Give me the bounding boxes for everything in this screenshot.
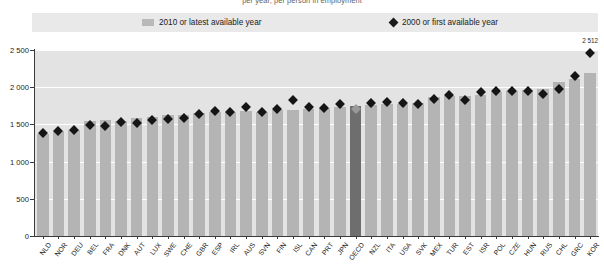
x-tick-mark xyxy=(575,236,576,239)
y-tick-mark xyxy=(30,162,34,163)
x-tick-mark xyxy=(168,236,169,239)
y-tick-mark xyxy=(30,50,34,51)
y-axis-labels: 05001 0001 5002 0002 500 xyxy=(0,0,604,272)
x-tick-mark xyxy=(262,236,263,239)
y-tick-mark xyxy=(30,199,34,200)
x-tick-mark xyxy=(293,236,294,239)
x-tick-mark xyxy=(496,236,497,239)
x-tick-mark xyxy=(387,236,388,239)
x-tick-mark xyxy=(152,236,153,239)
x-tick-mark xyxy=(481,236,482,239)
x-tick-mark xyxy=(528,236,529,239)
y-tick-label: 1 500 xyxy=(0,120,29,129)
x-tick-mark xyxy=(590,236,591,239)
x-tick-mark xyxy=(246,236,247,239)
y-tick-label: 1 000 xyxy=(0,157,29,166)
x-tick-mark xyxy=(465,236,466,239)
x-tick-mark xyxy=(90,236,91,239)
x-tick-mark xyxy=(449,236,450,239)
x-tick-mark xyxy=(121,236,122,239)
y-tick-label: 0 xyxy=(0,232,29,241)
x-tick-mark xyxy=(340,236,341,239)
y-tick-label: 2 000 xyxy=(0,83,29,92)
x-tick-mark xyxy=(324,236,325,239)
x-tick-mark xyxy=(403,236,404,239)
x-tick-mark xyxy=(74,236,75,239)
x-tick-mark xyxy=(277,236,278,239)
x-tick-mark xyxy=(543,236,544,239)
y-tick-mark xyxy=(30,124,34,125)
x-tick-mark xyxy=(309,236,310,239)
x-tick-mark xyxy=(512,236,513,239)
y-tick-mark xyxy=(30,87,34,88)
x-tick-mark xyxy=(43,236,44,239)
x-tick-mark xyxy=(215,236,216,239)
x-tick-mark xyxy=(559,236,560,239)
x-tick-mark xyxy=(199,236,200,239)
x-tick-mark xyxy=(58,236,59,239)
x-tick-mark xyxy=(371,236,372,239)
y-tick-mark xyxy=(30,236,34,237)
y-tick-label: 2 500 xyxy=(0,46,29,55)
x-tick-mark xyxy=(105,236,106,239)
x-tick-mark xyxy=(418,236,419,239)
chart-figure: per year, per person in employment 2010 … xyxy=(0,0,604,272)
x-tick-mark xyxy=(230,236,231,239)
y-tick-label: 500 xyxy=(0,194,29,203)
x-tick-mark xyxy=(434,236,435,239)
x-tick-mark xyxy=(356,236,357,239)
x-tick-mark xyxy=(184,236,185,239)
x-tick-mark xyxy=(137,236,138,239)
